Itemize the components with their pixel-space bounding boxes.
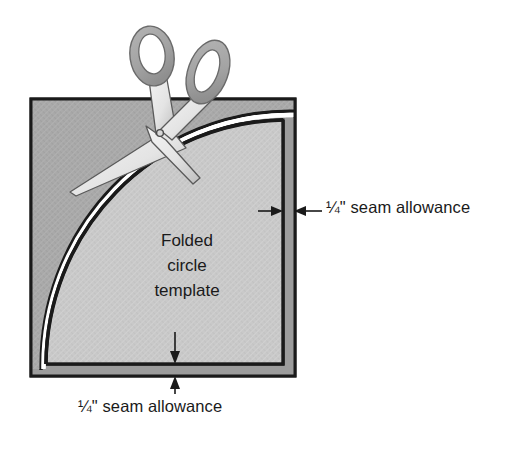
template-label-line-1: Folded <box>117 228 257 253</box>
seam-band-bottom <box>31 364 295 376</box>
label-seam-allowance-bottom: ¼" seam allowance <box>78 397 222 416</box>
diagram-illustration <box>0 0 525 451</box>
label-folded-circle-template: Folded circle template <box>117 228 257 303</box>
template-label-line-2: circle <box>117 253 257 278</box>
seam-band-right <box>283 118 295 376</box>
template-label-line-3: template <box>117 278 257 303</box>
figure-container: ¼" seam allowance ¼" seam allowance Fold… <box>0 0 525 451</box>
label-seam-allowance-right: ¼" seam allowance <box>326 198 470 217</box>
scissors-pivot-screw <box>157 130 164 137</box>
scissors-handle-left <box>126 23 178 89</box>
